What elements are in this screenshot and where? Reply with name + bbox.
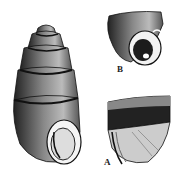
label-a: A <box>104 158 111 167</box>
shell-a-illustration <box>102 92 174 168</box>
shell-main-illustration <box>8 22 84 170</box>
label-b: B <box>117 65 123 74</box>
shell-b-illustration <box>101 6 171 68</box>
